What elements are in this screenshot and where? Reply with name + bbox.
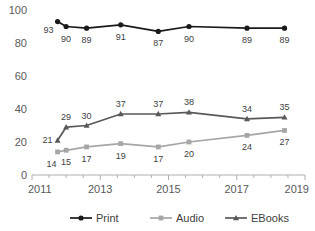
x-axis-tick-label: 2015 <box>156 183 180 195</box>
x-axis-tick-label: 2013 <box>88 183 112 195</box>
data-label-audio: 20 <box>184 149 194 159</box>
data-label-audio: 17 <box>82 154 92 164</box>
legend-label-print[interactable]: Print <box>96 212 119 224</box>
x-axis-tick-label: 2019 <box>285 183 309 195</box>
series-line-ebooks <box>58 112 285 140</box>
y-axis-tick-label: 80 <box>15 37 27 49</box>
y-axis-tick-label: 60 <box>15 70 27 82</box>
data-label-print: 93 <box>44 25 54 35</box>
data-label-ebooks: 38 <box>184 97 194 107</box>
data-point-circle-icon <box>282 26 287 31</box>
y-axis-tick-label: 0 <box>21 169 27 181</box>
data-point-circle-icon <box>156 29 161 34</box>
data-point-square-icon <box>55 150 60 155</box>
line-chart: 020406080100 20112013201520172019 939089… <box>0 0 315 231</box>
data-point-circle-icon <box>55 19 60 24</box>
data-point-square-icon <box>187 140 192 145</box>
data-label-print: 87 <box>153 38 163 48</box>
y-axis-tick-label: 100 <box>9 4 27 16</box>
data-point-square-icon <box>118 141 123 146</box>
data-label-print: 89 <box>82 35 92 45</box>
data-point-square-icon <box>64 148 69 153</box>
data-label-print: 89 <box>242 35 252 45</box>
data-point-circle-icon <box>118 22 123 27</box>
legend-label-audio[interactable]: Audio <box>176 212 204 224</box>
data-label-ebooks: 35 <box>280 102 290 112</box>
data-point-square-icon <box>245 133 250 138</box>
x-axis-tick-label: 2011 <box>28 183 52 195</box>
data-point-circle-icon <box>244 26 249 31</box>
legend-label-ebooks[interactable]: EBooks <box>251 212 289 224</box>
data-label-ebooks: 30 <box>82 111 92 121</box>
data-point-square-icon <box>84 145 89 150</box>
data-label-ebooks: 37 <box>116 99 126 109</box>
data-point-circle-icon <box>84 26 89 31</box>
data-label-ebooks: 34 <box>242 104 252 114</box>
data-label-audio: 27 <box>280 137 290 147</box>
data-label-audio: 17 <box>153 154 163 164</box>
data-point-square-icon <box>282 128 287 133</box>
data-point-square-icon <box>159 216 164 221</box>
data-label-print: 89 <box>280 35 290 45</box>
data-label-audio: 15 <box>61 157 71 167</box>
data-point-circle-icon <box>186 24 191 29</box>
data-label-audio: 14 <box>47 159 57 169</box>
data-point-circle-icon <box>64 24 69 29</box>
chart-canvas: 020406080100 20112013201520172019 939089… <box>0 0 315 231</box>
data-label-ebooks: 21 <box>43 135 53 145</box>
data-label-ebooks: 37 <box>153 99 163 109</box>
y-axis-tick-label: 20 <box>15 136 27 148</box>
data-label-print: 91 <box>116 32 126 42</box>
x-axis-tick-label: 2017 <box>225 183 249 195</box>
data-label-print: 90 <box>61 34 71 44</box>
data-point-circle-icon <box>78 215 83 220</box>
data-label-audio: 19 <box>116 151 126 161</box>
series-line-print <box>58 22 285 32</box>
y-axis: 020406080100 <box>9 4 27 181</box>
data-point-square-icon <box>156 145 161 150</box>
data-label-ebooks: 29 <box>61 112 71 122</box>
x-axis: 20112013201520172019 <box>28 175 309 195</box>
data-label-print: 90 <box>184 34 194 44</box>
chart-legend: PrintAudioEBooks <box>70 212 289 224</box>
data-label-audio: 24 <box>242 142 252 152</box>
y-axis-tick-label: 40 <box>15 103 27 115</box>
